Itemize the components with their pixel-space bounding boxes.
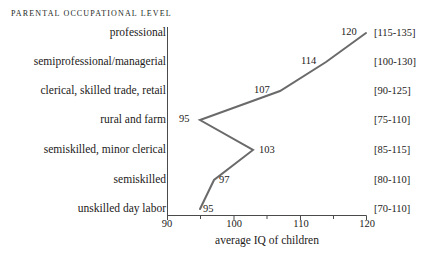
range-label-clerical-skilled-trade-retail: [90-125] [374,86,411,97]
category-label-clerical-skilled-trade-retail: clerical, skilled trade, retail [41,85,166,97]
value-label-semiprofessional-managerial: 114 [301,56,316,67]
x-tick-label-110: 110 [293,219,308,230]
category-label-semiskilled: semiskilled [114,174,166,186]
range-label-rural-and-farm: [75-110] [374,115,410,126]
value-label-semiskilled-minor-clerical: 103 [259,145,275,156]
value-label-rural-and-farm: 95 [179,114,190,125]
value-label-unskilled-day-labor: 95 [203,204,214,215]
value-label-clerical-skilled-trade-retail: 107 [254,85,270,96]
range-label-semiskilled-minor-clerical: [85-115] [374,145,410,156]
category-label-semiprofessional-managerial: semiprofessional/managerial [34,56,166,68]
value-label-professional: 120 [341,27,357,38]
x-tick-label-90: 90 [162,219,173,230]
category-label-professional: professional [110,27,166,39]
value-label-semiskilled: 97 [219,175,230,186]
x-tick-label-100: 100 [226,219,242,230]
range-label-semiskilled: [80-110] [374,175,410,186]
category-label-rural-and-farm: rural and farm [100,114,166,126]
range-label-professional: [115-135] [374,28,416,39]
x-axis-title: average IQ of children [215,235,319,247]
category-label-unskilled-day-labor: unskilled day labor [78,203,166,215]
range-label-semiprofessional-managerial: [100-130] [374,57,416,68]
category-label-semiskilled-minor-clerical: semiskilled, minor clerical [44,144,166,156]
chart-figure: PARENTAL OCCUPATIONAL LEVEL professional… [0,0,435,261]
x-tick-label-120: 120 [359,219,375,230]
range-label-unskilled-day-labor: [70-110] [374,204,410,215]
